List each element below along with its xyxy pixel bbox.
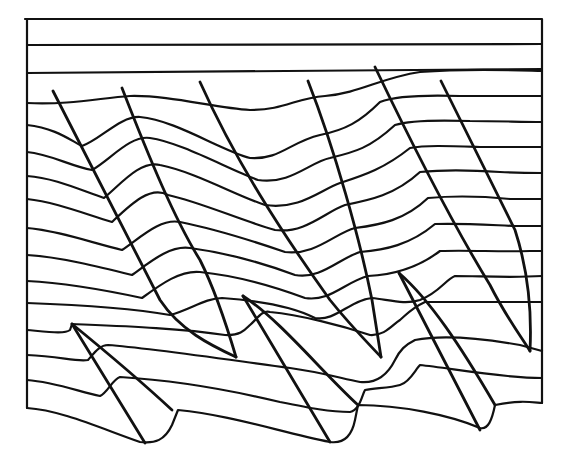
fault-line-7 (72, 324, 172, 410)
geological-cross-section (0, 0, 564, 466)
stratum-layer-2 (27, 70, 542, 110)
stratum-layer-0 (27, 44, 542, 45)
fault-line-6 (72, 324, 145, 443)
stratum-layer-14 (27, 402, 542, 443)
fault-lines (53, 67, 530, 443)
stratum-layer-6 (27, 171, 542, 231)
stratum-layer-10 (27, 276, 542, 318)
fault-line-4 (375, 67, 530, 351)
fault-line-0 (53, 91, 236, 357)
stratum-layer-9 (27, 251, 542, 299)
fault-line-10 (399, 273, 480, 430)
stratum-layer-13 (27, 365, 542, 412)
